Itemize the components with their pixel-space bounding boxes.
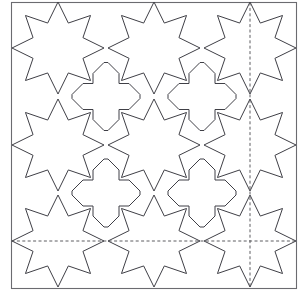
figure-background <box>0 0 305 303</box>
pattern-canvas <box>0 0 305 303</box>
geometric-pattern-figure <box>0 0 305 303</box>
